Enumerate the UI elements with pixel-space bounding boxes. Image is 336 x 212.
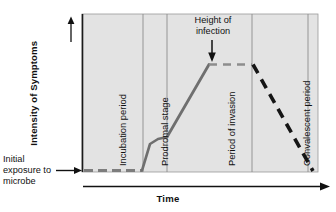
y-axis-title: Intensity of Symptoms <box>29 23 40 163</box>
stage-label-convalescent-period: Convalescent period <box>301 81 312 166</box>
stage-label-incubation-period: Incubation period <box>117 94 128 166</box>
disease-progress-diagram: Intensity of Symptoms Time Initial expos… <box>0 0 336 212</box>
x-axis-arrow-icon <box>83 183 330 191</box>
x-axis-title: Time <box>0 194 336 205</box>
stage-label-prodromal-stage: Prodromal stage <box>159 97 170 166</box>
stage-label-period-of-invasion: Period of invasion <box>226 91 237 166</box>
y-axis-arrow-icon <box>68 17 75 43</box>
height-of-infection-label: Height of infection <box>182 15 244 37</box>
initial-exposure-label: Initial exposure to microbe <box>3 154 63 188</box>
